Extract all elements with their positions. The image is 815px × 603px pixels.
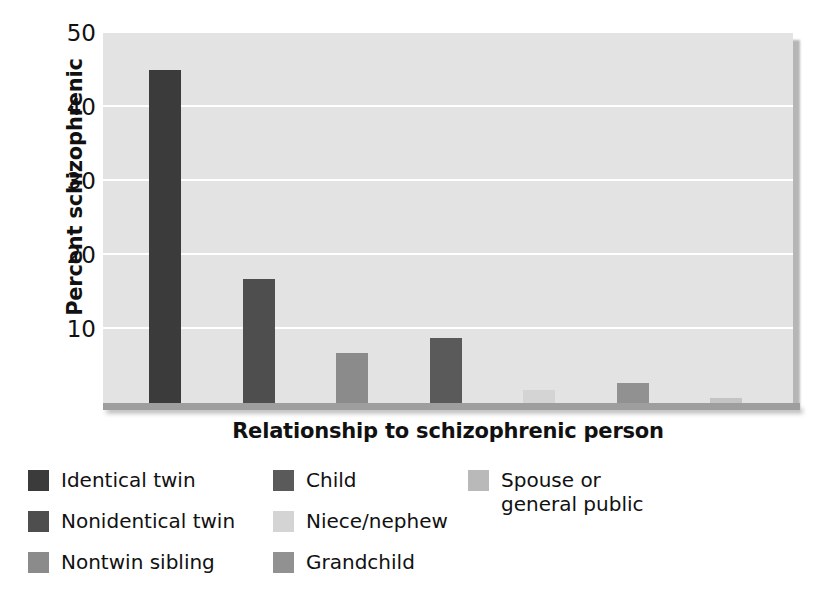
bar-child	[430, 338, 462, 405]
y-tick-50: 50	[40, 22, 96, 45]
legend-item-label: Nontwin sibling	[61, 550, 215, 574]
legend-column-1: Identical twin Nonidentical twin Nontwin…	[28, 468, 235, 591]
y-tick-30: 30	[40, 170, 96, 193]
y-tick-40: 40	[40, 96, 96, 119]
legend-swatch-icon	[28, 511, 49, 532]
legend: Identical twin Nonidentical twin Nontwin…	[28, 468, 808, 588]
y-tick-20: 20	[40, 244, 96, 267]
legend-swatch-icon	[468, 470, 489, 491]
legend-item-label: Nonidentical twin	[61, 509, 235, 533]
bar-chart-figure: Percent schizophrenic 50 40 30 20 10 Rel…	[0, 0, 815, 603]
legend-item-grandchild: Grandchild	[273, 550, 448, 580]
legend-item-nonidentical-twin: Nonidentical twin	[28, 509, 235, 539]
bars-layer	[103, 33, 793, 405]
y-tick-10: 10	[40, 318, 96, 341]
legend-column-2: Child Niece/nephew Grandchild	[273, 468, 448, 591]
legend-item-label: Spouse or general public	[501, 468, 644, 516]
legend-item-label: Grandchild	[306, 550, 415, 574]
axis-baseline	[103, 403, 800, 410]
legend-swatch-icon	[28, 470, 49, 491]
legend-swatch-icon	[28, 552, 49, 573]
y-axis-tick-labels: 50 40 30 20 10	[40, 0, 96, 420]
legend-item-niece-nephew: Niece/nephew	[273, 509, 448, 539]
legend-swatch-icon	[273, 511, 294, 532]
legend-item-label: Niece/nephew	[306, 509, 448, 533]
bar-nontwin-sibling	[336, 353, 368, 405]
legend-item-spouse-general-public: Spouse or general public	[468, 468, 644, 498]
legend-swatch-icon	[273, 470, 294, 491]
bar-nonidentical-twin	[243, 279, 275, 405]
x-axis-title: Relationship to schizophrenic person	[103, 419, 793, 443]
bar-identical-twin	[149, 70, 181, 405]
bar-grandchild	[617, 383, 649, 405]
legend-item-label: Child	[306, 468, 356, 492]
legend-item-child: Child	[273, 468, 448, 498]
legend-column-3: Spouse or general public	[468, 468, 644, 509]
legend-item-label: Identical twin	[61, 468, 196, 492]
legend-item-nontwin-sibling: Nontwin sibling	[28, 550, 235, 580]
legend-item-identical-twin: Identical twin	[28, 468, 235, 498]
legend-swatch-icon	[273, 552, 294, 573]
